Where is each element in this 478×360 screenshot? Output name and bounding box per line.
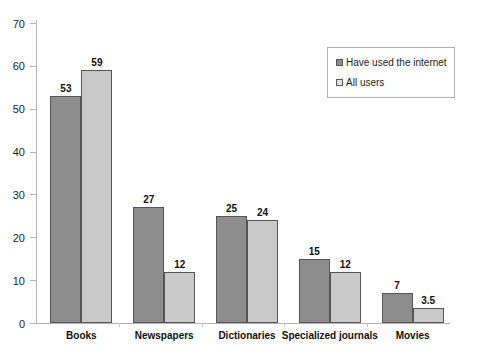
y-axis-tick-label: 0 xyxy=(19,318,25,330)
y-axis-tick-label: 50 xyxy=(13,103,25,115)
x-axis-tick xyxy=(202,323,203,327)
x-axis-tick xyxy=(367,323,368,327)
x-axis-category-label: Newspapers xyxy=(135,330,194,341)
bar[interactable]: 15 xyxy=(299,259,330,323)
bar-value-label: 53 xyxy=(60,83,71,94)
bar-group: 5359 xyxy=(50,23,112,323)
bar-value-label: 7 xyxy=(394,280,400,291)
y-axis-tick-label: 70 xyxy=(13,18,25,30)
bar-value-label: 12 xyxy=(340,259,351,270)
bar[interactable]: 25 xyxy=(216,216,247,323)
legend: Have used the internet All users xyxy=(327,47,455,98)
x-axis-line xyxy=(36,323,450,324)
bar[interactable]: 7 xyxy=(382,293,413,323)
bar-value-label: 3.5 xyxy=(421,295,435,306)
legend-item-label: All users xyxy=(346,77,384,88)
x-axis-category-label: Dictionaries xyxy=(218,330,275,341)
y-axis-tick-label: 20 xyxy=(13,232,25,244)
x-axis-category-label: Movies xyxy=(396,330,430,341)
y-axis-tick: 0 xyxy=(30,323,37,324)
legend-swatch-icon xyxy=(336,59,343,66)
y-axis-tick-label: 30 xyxy=(13,189,25,201)
x-axis-category-label: Books xyxy=(66,330,97,341)
x-axis-tick xyxy=(284,323,285,327)
bar[interactable]: 3.5 xyxy=(413,308,444,323)
legend-swatch-icon xyxy=(336,79,343,86)
bar-value-label: 24 xyxy=(257,207,268,218)
bar[interactable]: 24 xyxy=(247,220,278,323)
bar-group: 2524 xyxy=(216,23,278,323)
bar-chart: 010203040506070 535927122524151273.5 Boo… xyxy=(0,0,478,360)
legend-item-label: Have used the internet xyxy=(346,57,447,68)
legend-item-all-users[interactable]: All users xyxy=(336,77,447,88)
bar-value-label: 15 xyxy=(309,246,320,257)
y-axis-tick-label: 10 xyxy=(13,275,25,287)
bar[interactable]: 12 xyxy=(164,272,195,323)
bar[interactable]: 53 xyxy=(50,96,81,323)
legend-item-have-used-the-internet[interactable]: Have used the internet xyxy=(336,57,447,68)
bar[interactable]: 12 xyxy=(330,272,361,323)
bar[interactable]: 27 xyxy=(133,207,164,323)
bar-value-label: 59 xyxy=(91,57,102,68)
y-axis-tick-label: 60 xyxy=(13,60,25,72)
y-axis-tick-label: 40 xyxy=(13,146,25,158)
bar[interactable]: 59 xyxy=(81,70,112,323)
bar-value-label: 12 xyxy=(174,259,185,270)
x-axis-category-label: Specialized journals xyxy=(282,330,378,341)
bar-group: 2712 xyxy=(133,23,195,323)
bar-value-label: 25 xyxy=(226,203,237,214)
bar-value-label: 27 xyxy=(143,194,154,205)
x-axis-tick xyxy=(119,323,120,327)
